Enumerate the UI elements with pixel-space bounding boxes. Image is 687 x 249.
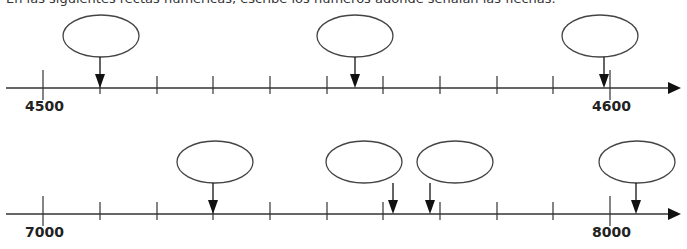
pointer-arrowhead-icon	[95, 74, 105, 88]
end-label: 8000	[592, 224, 631, 240]
pointer-arrowhead-icon	[350, 74, 360, 88]
pointer-arrowhead-icon	[631, 200, 641, 214]
answer-oval[interactable]	[63, 15, 139, 57]
answer-oval[interactable]	[326, 141, 402, 183]
pointer-arrowhead-icon	[208, 200, 218, 214]
start-label: 7000	[25, 224, 64, 240]
pointer-arrowhead-icon	[425, 200, 435, 214]
pointer-arrowhead-icon	[388, 200, 398, 214]
answer-oval[interactable]	[417, 141, 493, 183]
start-label: 4500	[25, 98, 64, 114]
axis-arrowhead-icon	[668, 208, 681, 220]
answer-oval[interactable]	[317, 15, 393, 57]
number-lines-diagram: 4500460070008000	[0, 0, 687, 249]
answer-oval[interactable]	[562, 15, 638, 57]
answer-oval[interactable]	[599, 141, 675, 183]
axis-arrowhead-icon	[668, 82, 681, 94]
answer-oval[interactable]	[177, 141, 253, 183]
pointer-arrowhead-icon	[599, 74, 609, 88]
end-label: 4600	[592, 98, 631, 114]
